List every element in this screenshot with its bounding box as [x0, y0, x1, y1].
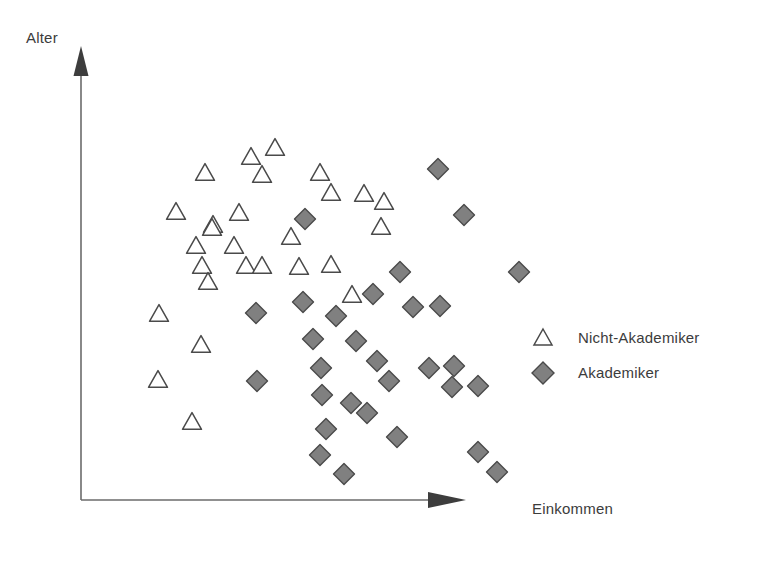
data-point-akademiker — [419, 358, 440, 379]
data-point-akademiker — [310, 445, 331, 466]
data-point-nicht-akademiker — [322, 256, 341, 273]
data-point-akademiker — [247, 371, 268, 392]
data-point-akademiker — [403, 297, 424, 318]
data-point-akademiker — [468, 376, 489, 397]
scatter-chart: Alter Einkommen Nicht-Akademiker Akademi… — [0, 0, 765, 570]
data-point-nicht-akademiker — [253, 166, 272, 183]
data-point-nicht-akademiker — [375, 193, 394, 210]
data-point-nicht-akademiker — [196, 164, 215, 181]
data-point-akademiker — [509, 262, 530, 283]
data-point-nicht-akademiker — [242, 148, 261, 165]
data-point-akademiker — [334, 464, 355, 485]
data-point-nicht-akademiker — [183, 413, 202, 430]
data-point-akademiker — [468, 442, 489, 463]
data-point-akademiker — [390, 262, 411, 283]
data-point-akademiker — [367, 351, 388, 372]
data-point-akademiker — [379, 371, 400, 392]
data-point-nicht-akademiker — [282, 228, 301, 245]
data-point-akademiker — [442, 377, 463, 398]
data-point-akademiker — [428, 159, 449, 180]
data-point-nicht-akademiker — [355, 185, 374, 202]
x-axis-arrowhead — [428, 492, 466, 508]
data-point-akademiker — [363, 284, 384, 305]
x-axis — [81, 492, 466, 508]
data-point-nicht-akademiker — [322, 184, 341, 201]
legend-item-label-akademiker: Akademiker — [578, 364, 659, 381]
data-point-akademiker — [346, 331, 367, 352]
series-nicht-akademiker — [149, 139, 394, 430]
y-axis — [74, 46, 89, 500]
data-point-nicht-akademiker — [253, 257, 272, 274]
data-point-nicht-akademiker — [237, 257, 256, 274]
data-point-akademiker — [295, 209, 316, 230]
data-point-nicht-akademiker — [187, 237, 206, 254]
y-axis-label: Alter — [26, 29, 58, 46]
data-point-akademiker — [303, 329, 324, 350]
legend-diamond-icon — [532, 362, 554, 384]
data-point-nicht-akademiker — [167, 203, 186, 220]
legend-triangle-icon — [534, 329, 552, 345]
data-point-akademiker — [454, 205, 475, 226]
data-point-akademiker — [311, 358, 332, 379]
data-point-akademiker — [487, 462, 508, 483]
legend-item-label-nicht-akademiker: Nicht-Akademiker — [578, 329, 700, 346]
data-point-nicht-akademiker — [150, 305, 169, 322]
legend — [532, 329, 554, 384]
data-point-akademiker — [430, 296, 451, 317]
chart-canvas — [0, 0, 765, 570]
data-point-nicht-akademiker — [230, 204, 249, 221]
data-point-nicht-akademiker — [199, 273, 218, 290]
data-point-akademiker — [326, 306, 347, 327]
data-point-akademiker — [444, 356, 465, 377]
data-point-nicht-akademiker — [193, 257, 212, 274]
y-axis-arrowhead — [74, 46, 89, 76]
data-point-nicht-akademiker — [311, 164, 330, 181]
data-point-nicht-akademiker — [290, 258, 309, 275]
data-point-nicht-akademiker — [149, 371, 168, 388]
data-point-akademiker — [312, 385, 333, 406]
data-point-akademiker — [387, 427, 408, 448]
data-point-akademiker — [316, 419, 337, 440]
data-point-nicht-akademiker — [266, 139, 285, 156]
data-point-nicht-akademiker — [225, 237, 244, 254]
data-point-nicht-akademiker — [192, 336, 211, 353]
data-point-akademiker — [246, 303, 267, 324]
data-point-nicht-akademiker — [343, 286, 362, 303]
data-point-nicht-akademiker — [372, 218, 391, 235]
data-point-akademiker — [293, 292, 314, 313]
x-axis-label: Einkommen — [532, 500, 613, 517]
